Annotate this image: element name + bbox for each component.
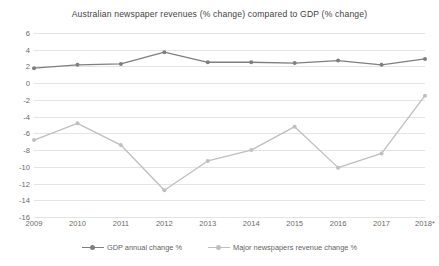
y-tick-label: -14 [4, 196, 30, 205]
data-point [162, 188, 166, 192]
data-point [32, 138, 36, 142]
x-tick-label: 2015 [286, 219, 303, 228]
x-axis: 2009201020112012201320142015201620172018… [34, 219, 425, 233]
data-point [75, 63, 79, 67]
data-point [206, 159, 210, 163]
chart-container: Australian newspaper revenues (% change)… [0, 0, 439, 266]
x-tick-label: 2012 [156, 219, 173, 228]
legend-item[interactable]: GDP annual change % [82, 243, 182, 252]
y-tick-label: -6 [4, 129, 30, 138]
y-axis: 6420-2-4-6-8-10-12-14-16 [0, 33, 30, 217]
y-tick-label: -10 [4, 162, 30, 171]
data-point [162, 50, 166, 54]
x-tick-label: 2014 [243, 219, 260, 228]
x-tick-label: 2018* [415, 219, 435, 228]
data-point [336, 166, 340, 170]
data-point [423, 57, 427, 61]
y-tick-label: 2 [4, 62, 30, 71]
data-point [249, 60, 253, 64]
legend-label: GDP annual change % [107, 243, 182, 252]
series-line [34, 52, 425, 68]
data-point [119, 143, 123, 147]
data-point [293, 125, 297, 129]
x-tick-label: 2013 [199, 219, 216, 228]
data-point [75, 121, 79, 125]
chart-legend: GDP annual change %Major newspapers reve… [0, 243, 439, 252]
legend-swatch-icon [208, 244, 230, 252]
legend-label: Major newspapers revenue change % [233, 243, 357, 252]
data-point [380, 151, 384, 155]
chart-title: Australian newspaper revenues (% change)… [0, 9, 439, 19]
y-tick-label: -12 [4, 179, 30, 188]
legend-item[interactable]: Major newspapers revenue change % [208, 243, 357, 252]
x-tick-label: 2016 [330, 219, 347, 228]
data-point [32, 66, 36, 70]
data-point [249, 148, 253, 152]
data-point [423, 94, 427, 98]
y-tick-label: 6 [4, 29, 30, 38]
series-line [34, 96, 425, 191]
x-tick-label: 2017 [373, 219, 390, 228]
data-point [293, 61, 297, 65]
data-point [206, 60, 210, 64]
y-tick-label: -8 [4, 146, 30, 155]
series-layer [34, 33, 425, 217]
y-tick-label: 4 [4, 45, 30, 54]
gridline [34, 217, 425, 218]
data-point [380, 63, 384, 67]
data-point [336, 59, 340, 63]
y-tick-label: -2 [4, 95, 30, 104]
y-tick-label: -4 [4, 112, 30, 121]
x-tick-label: 2010 [69, 219, 86, 228]
legend-swatch-icon [82, 244, 104, 252]
data-point [119, 62, 123, 66]
plot-area [34, 33, 425, 217]
x-tick-label: 2011 [113, 219, 129, 228]
x-tick-label: 2009 [26, 219, 43, 228]
y-tick-label: 0 [4, 79, 30, 88]
